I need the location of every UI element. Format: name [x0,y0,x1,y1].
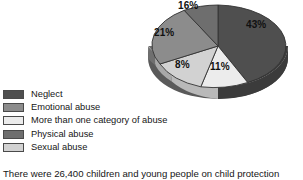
pie-top-face [152,5,286,88]
legend-label-physical-abuse: Physical abuse [31,130,94,139]
slice-value-more-than-one-category: 21% [154,28,174,38]
legend-label-more-than-one-category: More than one category of abuse [31,116,167,125]
legend-item-sexual-abuse: Sexual abuse [3,141,203,154]
legend-label-neglect: Neglect [31,90,63,99]
legend-label-emotional-abuse: Emotional abuse [31,103,100,112]
chart-caption: There were 26,400 children and young peo… [3,169,279,179]
slice-value-physical-abuse: 8% [175,60,190,70]
chart-legend: Neglect Emotional abuse More than one ca… [3,88,203,154]
slice-value-sexual-abuse: 11% [210,62,230,72]
legend-swatch-icon-emotional-abuse [3,103,24,112]
legend-label-sexual-abuse: Sexual abuse [31,143,87,152]
legend-item-more-than-one-category: More than one category of abuse [3,114,203,127]
slice-value-neglect: 43% [246,20,266,30]
legend-item-physical-abuse: Physical abuse [3,128,203,141]
legend-swatch-icon-neglect [3,90,24,99]
legend-item-neglect: Neglect [3,88,203,101]
legend-item-emotional-abuse: Emotional abuse [3,101,203,114]
legend-swatch-icon-physical-abuse [3,130,24,139]
legend-swatch-icon-more-than-one-category [3,116,24,125]
legend-swatch-icon-sexual-abuse [3,143,24,152]
slice-value-emotional-abuse: 16% [178,1,198,11]
